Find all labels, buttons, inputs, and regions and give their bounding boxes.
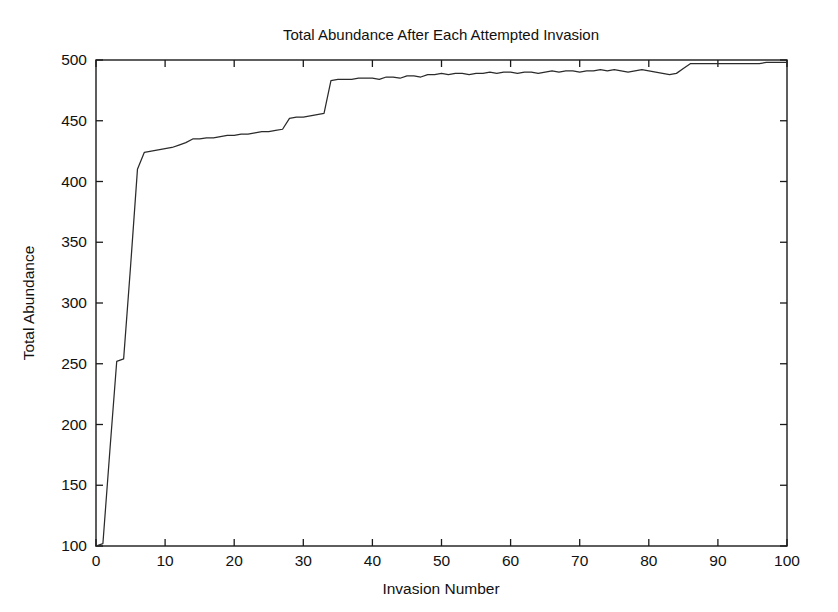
x-tick-label-50: 50 — [433, 552, 451, 569]
y-tick-label-250: 250 — [61, 355, 87, 372]
x-tick-label-60: 60 — [502, 552, 520, 569]
x-tick-label-100: 100 — [774, 552, 800, 569]
y-tick-label-350: 350 — [61, 233, 87, 250]
x-tick-label-0: 0 — [92, 552, 101, 569]
y-tick-label-200: 200 — [61, 416, 87, 433]
abundance-line-chart: Total Abundance After Each Attempted Inv… — [0, 0, 838, 612]
chart-title: Total Abundance After Each Attempted Inv… — [283, 26, 599, 43]
x-tick-label-80: 80 — [640, 552, 658, 569]
x-tick-label-70: 70 — [571, 552, 589, 569]
x-tick-label-20: 20 — [226, 552, 244, 569]
figure-canvas: Total Abundance After Each Attempted Inv… — [0, 0, 838, 612]
y-axis-title: Total Abundance — [20, 246, 37, 361]
y-tick-label-400: 400 — [61, 173, 87, 190]
x-tick-label-40: 40 — [364, 552, 382, 569]
x-axis-title: Invasion Number — [382, 580, 499, 597]
x-tick-label-90: 90 — [709, 552, 727, 569]
y-tick-label-500: 500 — [61, 51, 87, 68]
y-axis-ticks — [96, 60, 787, 546]
y-tick-label-450: 450 — [61, 112, 87, 129]
abundance-series-line — [96, 62, 787, 546]
x-tick-label-10: 10 — [156, 552, 174, 569]
plot-axes-frame — [96, 60, 787, 546]
y-tick-label-100: 100 — [61, 537, 87, 554]
y-axis-tick-labels: 100150200250300350400450500 — [61, 51, 87, 554]
y-tick-label-300: 300 — [61, 294, 87, 311]
x-axis-tick-labels: 0102030405060708090100 — [92, 552, 801, 569]
x-axis-ticks — [96, 60, 787, 546]
x-tick-label-30: 30 — [295, 552, 313, 569]
y-tick-label-150: 150 — [61, 476, 87, 493]
